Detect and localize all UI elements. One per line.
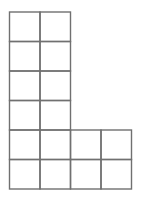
grid-cell [40, 12, 71, 42]
grid-cell [101, 130, 132, 160]
grid-cell [40, 71, 71, 101]
grid-cell [10, 12, 41, 42]
grid-cell [71, 160, 102, 190]
grid-cell [10, 160, 41, 190]
grid-cell [40, 160, 71, 190]
grid-cell [10, 71, 41, 101]
grid-cell [40, 42, 71, 72]
l-shape-grid [0, 0, 144, 203]
grid-cell [40, 130, 71, 160]
grid-cell [10, 101, 41, 131]
grid-cell [40, 101, 71, 131]
grid-cell [71, 130, 102, 160]
grid-cell [101, 160, 132, 190]
grid-cell [10, 42, 41, 72]
grid-cell [10, 130, 41, 160]
